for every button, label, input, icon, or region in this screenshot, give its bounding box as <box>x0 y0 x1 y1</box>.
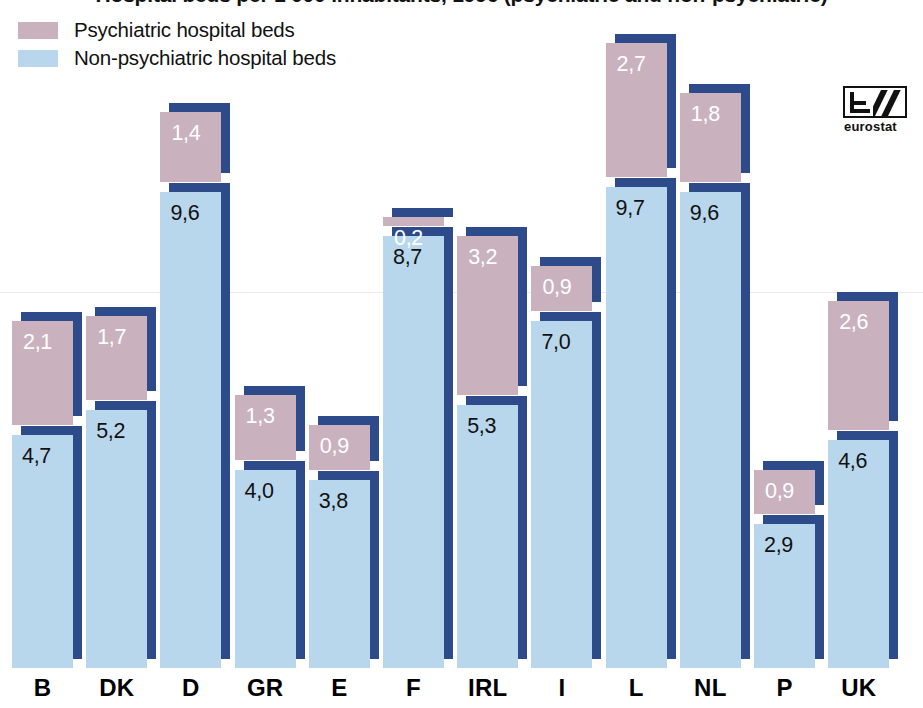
eurostat-logo-icon <box>843 86 907 118</box>
category-tick-l: L <box>606 674 667 702</box>
bar-value-label-psychiatric-gr: 1,3 <box>246 406 275 428</box>
bar-segment-non-psychiatric-dk[interactable]: 5,2 <box>86 410 147 668</box>
bar-segment-non-psychiatric-irl[interactable]: 5,3 <box>457 405 518 668</box>
legend-item-non-psychiatric[interactable]: Non-psychiatric hospital beds <box>18 44 336 72</box>
chart-legend: Psychiatric hospital beds Non-psychiatri… <box>18 16 336 72</box>
psychiatric-swatch <box>18 22 58 39</box>
bar-value-label-psychiatric-e: 0,9 <box>320 436 349 458</box>
bar-segment-non-psychiatric-e[interactable]: 3,8 <box>309 480 370 668</box>
chart-canvas: Hospital beds per 1 000 inhabitants, 199… <box>0 0 923 708</box>
bar-segment-psychiatric-d[interactable]: 1,4 <box>160 112 221 181</box>
bar-segment-psychiatric-uk[interactable]: 2,6 <box>828 301 889 430</box>
bar-face <box>457 405 518 668</box>
bar-segment-psychiatric-irl[interactable]: 3,2 <box>457 236 518 395</box>
bar-segment-non-psychiatric-gr[interactable]: 4,0 <box>235 470 296 668</box>
bar-value-label-psychiatric-nl: 1,8 <box>691 104 720 126</box>
bar-value-label-non-psychiatric-gr: 4,0 <box>245 481 274 503</box>
category-tick-gr: GR <box>235 674 296 702</box>
bar-segment-psychiatric-b[interactable]: 2,1 <box>12 321 73 425</box>
legend-item-psychiatric[interactable]: Psychiatric hospital beds <box>18 16 336 44</box>
bar-segment-non-psychiatric-nl[interactable]: 9,6 <box>680 192 741 668</box>
category-tick-d: D <box>160 674 221 702</box>
bar-face <box>12 435 73 668</box>
bar-value-label-non-psychiatric-f: 8,7 <box>393 247 422 269</box>
bar-value-label-non-psychiatric-p: 2,9 <box>764 535 793 557</box>
bar-value-label-non-psychiatric-dk: 5,2 <box>96 421 125 443</box>
bar-segment-non-psychiatric-p[interactable]: 2,9 <box>754 524 815 668</box>
bar-value-label-psychiatric-f: 0,2 <box>394 228 423 250</box>
bar-face <box>383 217 444 227</box>
category-tick-dk: DK <box>86 674 147 702</box>
bar-value-label-psychiatric-uk: 2,6 <box>839 312 868 334</box>
bar-face <box>828 440 889 668</box>
bar-value-label-psychiatric-i: 0,9 <box>542 277 571 299</box>
bar-face <box>531 321 592 668</box>
bar-segment-psychiatric-e[interactable]: 0,9 <box>309 425 370 470</box>
bar-face <box>383 236 444 668</box>
bar-segment-non-psychiatric-i[interactable]: 7,0 <box>531 321 592 668</box>
non-psychiatric-swatch <box>18 50 58 67</box>
bar-value-label-psychiatric-p: 0,9 <box>765 481 794 503</box>
bar-value-label-non-psychiatric-l: 9,7 <box>616 198 645 220</box>
bar-segment-non-psychiatric-l[interactable]: 9,7 <box>606 187 667 668</box>
bar-segment-psychiatric-dk[interactable]: 1,7 <box>86 316 147 400</box>
bar-value-label-non-psychiatric-e: 3,8 <box>319 491 348 513</box>
bar-face <box>86 410 147 668</box>
bar-segment-psychiatric-gr[interactable]: 1,3 <box>235 395 296 459</box>
category-tick-nl: NL <box>680 674 741 702</box>
chart-title: Hospital beds per 1 000 inhabitants, 199… <box>0 0 923 7</box>
category-tick-e: E <box>309 674 370 702</box>
bar-segment-psychiatric-p[interactable]: 0,9 <box>754 470 815 515</box>
bar-value-label-non-psychiatric-d: 9,6 <box>170 203 199 225</box>
bar-segment-non-psychiatric-d[interactable]: 9,6 <box>160 192 221 668</box>
bar-value-label-psychiatric-dk: 1,7 <box>97 327 126 349</box>
category-tick-i: I <box>531 674 592 702</box>
bar-segment-psychiatric-f[interactable]: 0,2 <box>383 217 444 227</box>
bar-face <box>606 187 667 668</box>
category-tick-b: B <box>12 674 73 702</box>
bar-value-label-non-psychiatric-b: 4,7 <box>22 446 51 468</box>
category-tick-irl: IRL <box>457 674 518 702</box>
bar-value-label-psychiatric-b: 2,1 <box>23 332 52 354</box>
bar-value-label-non-psychiatric-uk: 4,6 <box>838 451 867 473</box>
bar-value-label-non-psychiatric-i: 7,0 <box>541 332 570 354</box>
bar-segment-non-psychiatric-uk[interactable]: 4,6 <box>828 440 889 668</box>
bar-face <box>680 192 741 668</box>
bar-segment-psychiatric-i[interactable]: 0,9 <box>531 266 592 311</box>
bar-value-label-non-psychiatric-irl: 5,3 <box>467 416 496 438</box>
bar-segment-non-psychiatric-f[interactable]: 8,7 <box>383 236 444 668</box>
logo-slash-icon <box>873 90 903 116</box>
bar-face <box>160 192 221 668</box>
category-tick-f: F <box>383 674 444 702</box>
bar-value-label-psychiatric-d: 1,4 <box>171 123 200 145</box>
bar-segment-psychiatric-l[interactable]: 2,7 <box>606 43 667 177</box>
eurostat-logo: eurostat <box>843 86 909 134</box>
bar-value-label-non-psychiatric-nl: 9,6 <box>690 203 719 225</box>
bar-value-label-psychiatric-irl: 3,2 <box>468 247 497 269</box>
logo-letter-e-icon <box>850 92 870 113</box>
bar-segment-psychiatric-nl[interactable]: 1,8 <box>680 93 741 182</box>
category-tick-p: P <box>754 674 815 702</box>
bar-segment-non-psychiatric-b[interactable]: 4,7 <box>12 435 73 668</box>
legend-label-psychiatric: Psychiatric hospital beds <box>74 18 295 42</box>
bar-value-label-psychiatric-l: 2,7 <box>617 54 646 76</box>
category-tick-uk: UK <box>828 674 889 702</box>
legend-label-non-psychiatric: Non-psychiatric hospital beds <box>74 46 336 70</box>
eurostat-wordmark: eurostat <box>843 119 909 134</box>
